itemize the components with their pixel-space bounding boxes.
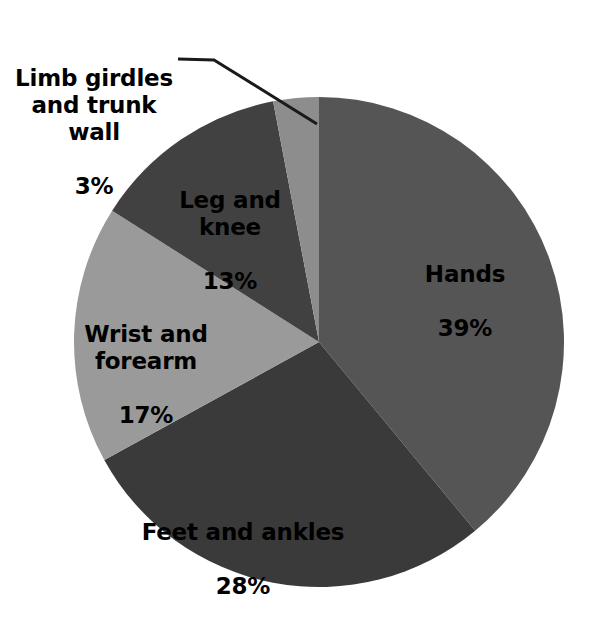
pie-label-wrist-and-forearm-value: 17%: [62, 402, 230, 429]
pie-label-limb-girdles-name: Limb girdles and trunk wall: [6, 65, 182, 146]
pie-chart: Limb girdles and trunk wall 3% Leg and k…: [0, 0, 599, 625]
pie-label-hands-value: 39%: [400, 315, 530, 342]
pie-label-hands-name: Hands: [400, 261, 530, 288]
pie-label-leg-and-knee-value: 13%: [160, 268, 300, 295]
pie-label-hands: Hands 39%: [400, 234, 530, 369]
pie-label-feet-and-ankles-value: 28%: [118, 573, 368, 600]
pie-label-limb-girdles-and-trunk-wall: Limb girdles and trunk wall 3%: [6, 38, 182, 226]
pie-label-wrist-and-forearm: Wrist and forearm 17%: [62, 294, 230, 455]
pie-label-wrist-and-forearm-name: Wrist and forearm: [62, 321, 230, 375]
pie-label-leg-and-knee-name: Leg and knee: [160, 187, 300, 241]
pie-label-feet-and-ankles-name: Feet and ankles: [118, 519, 368, 546]
pie-label-feet-and-ankles: Feet and ankles 28%: [118, 492, 368, 625]
pie-label-limb-girdles-value: 3%: [6, 173, 182, 200]
